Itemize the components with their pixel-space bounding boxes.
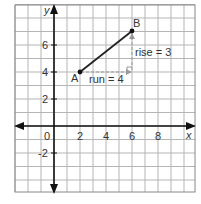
y-axis-label: y	[43, 4, 51, 16]
point-a-label: A	[71, 72, 79, 84]
point-b-label: B	[133, 17, 140, 29]
x-tick-4: 4	[103, 130, 109, 142]
point-b	[130, 29, 135, 34]
x-tick-2: 2	[77, 130, 83, 142]
x-tick-8: 8	[155, 130, 161, 142]
y-tick-neg2: -2	[38, 147, 48, 159]
x-axis-label: x	[185, 129, 192, 141]
x-tick-6: 6	[129, 130, 135, 142]
run-rise-guides	[81, 33, 135, 75]
y-tick-6: 6	[42, 39, 48, 51]
rise-arrow-icon	[129, 33, 135, 39]
rise-label: rise = 3	[135, 46, 171, 58]
coordinate-plane: y x 0 2 4 6 8 6 4 2 -2 A B run = 4 rise …	[0, 0, 201, 204]
y-tick-4: 4	[42, 66, 48, 78]
run-label: run = 4	[89, 73, 124, 85]
origin-label: 0	[44, 130, 50, 142]
y-tick-2: 2	[42, 93, 48, 105]
